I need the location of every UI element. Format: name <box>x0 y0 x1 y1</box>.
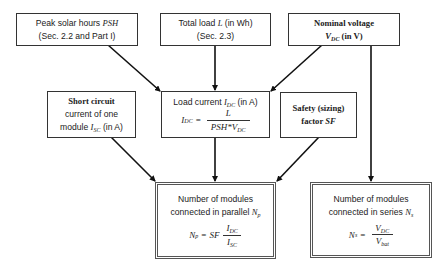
box-load-current: Load current IDC (in A) IDC = L PSH*VDC <box>161 91 270 138</box>
arrow-psh-to-load-current <box>108 45 160 91</box>
safety-line1: Safety (sizing) <box>293 102 345 115</box>
series-line2: connected in series Ns <box>329 206 414 219</box>
short-circuit-line3: module ISC (in A) <box>60 121 123 134</box>
psh-line2: (Sec. 2.2 and Part I) <box>39 30 116 43</box>
parallel-line1: Number of modules <box>178 193 253 206</box>
series-line1: Number of modules <box>334 193 409 206</box>
box-modules-series: Number of modules connected in series Ns… <box>310 182 432 258</box>
parallel-formula: Np = SF IDC ISC <box>189 224 241 248</box>
box-safety-factor: Safety (sizing) factor SF <box>280 92 357 138</box>
short-circuit-line1: Short circuit <box>68 95 114 108</box>
load-current-title: Load current IDC (in A) <box>173 96 257 109</box>
voltage-line2: VDC (in V) <box>325 30 362 43</box>
psh-line1: Peak solar hours PSH <box>36 17 119 30</box>
arrow-voltage-to-load-current <box>271 45 322 91</box>
box-peak-solar-hours: Peak solar hours PSH (Sec. 2.2 and Part … <box>16 13 138 46</box>
box-modules-parallel: Number of modules connected in parallel … <box>155 182 276 259</box>
load-current-formula: IDC = L PSH*VDC <box>181 109 249 133</box>
safety-line2: factor SF <box>301 115 335 128</box>
fraction: IDC ISC <box>222 224 241 248</box>
short-circuit-line2: current of one <box>65 108 118 121</box>
parallel-line2: connected in parallel Np <box>171 206 261 219</box>
box-short-circuit-current: Short circuit current of one module ISC … <box>47 91 136 138</box>
load-line1: Total load L (in Wh) <box>178 17 252 30</box>
box-total-load: Total load L (in Wh) (Sec. 2.3) <box>160 13 271 46</box>
fraction: L PSH*VDC <box>207 109 250 133</box>
arrow-safety-to-parallel <box>277 137 319 181</box>
voltage-line1: Nominal voltage <box>314 17 374 30</box>
series-formula: Ns = VDC Vbat <box>349 224 393 248</box>
load-line2: (Sec. 2.3) <box>197 30 234 43</box>
box-nominal-voltage: Nominal voltage VDC (in V) <box>288 13 400 46</box>
flowchart: Peak solar hours PSH (Sec. 2.2 and Part … <box>0 0 447 268</box>
fraction: VDC Vbat <box>371 224 393 248</box>
arrow-short-circuit-to-parallel <box>111 137 155 181</box>
